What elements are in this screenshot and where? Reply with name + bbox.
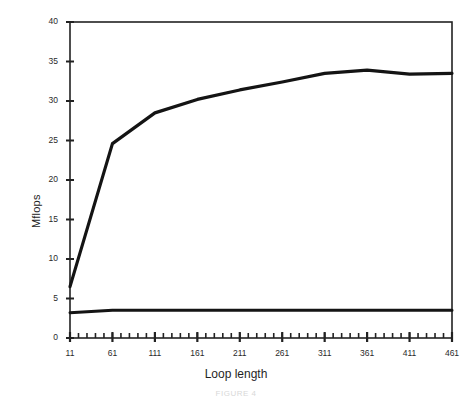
y-axis-tick-label: 35: [36, 56, 58, 66]
figure-container: 0510152025303540 11611111612112613113614…: [0, 0, 472, 399]
x-axis-tick-label: 261: [267, 348, 297, 358]
x-axis-tick-label: 211: [225, 348, 255, 358]
line-chart: [0, 0, 472, 399]
x-axis-tick-label: 161: [182, 348, 212, 358]
y-axis-tick-label: 20: [36, 174, 58, 184]
x-axis-tick-label: 11: [55, 348, 85, 358]
x-axis-tick-label: 311: [310, 348, 340, 358]
figure-caption: FIGURE 4: [0, 389, 472, 398]
plot-area-border: [70, 22, 452, 338]
x-axis-title-text: Loop length: [0, 367, 472, 381]
y-axis-tick-label: 25: [36, 135, 58, 145]
y-axis-tick-label: 40: [36, 16, 58, 26]
y-axis-tick-label: 10: [36, 253, 58, 263]
y-axis-tick-label: 5: [36, 293, 58, 303]
y-axis-tick-label: 30: [36, 95, 58, 105]
x-axis-tick-label: 461: [437, 348, 467, 358]
x-axis-tick-label: 361: [352, 348, 382, 358]
y-axis-title: Mflops: [12, 150, 34, 230]
y-axis-tick-label: 0: [36, 332, 58, 342]
x-axis-tick-label: 411: [395, 348, 425, 358]
y-axis-title-text: Mflops: [30, 194, 42, 228]
x-axis-tick-label: 111: [140, 348, 170, 358]
x-axis-tick-label: 61: [97, 348, 127, 358]
